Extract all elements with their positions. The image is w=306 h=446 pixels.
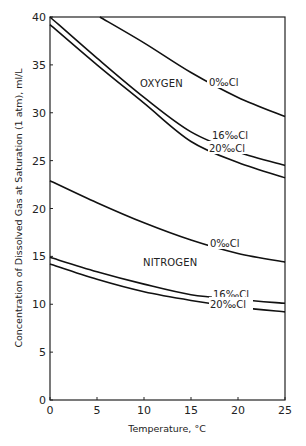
oxygen-20-label: 20‰Cl [209, 143, 245, 154]
x-tick-label: 5 [94, 404, 101, 417]
oxygen-0-label: 0‰Cl [209, 77, 239, 88]
chart: 05101520250510152025303540 OXYGEN NITROG… [0, 0, 306, 446]
axis-tick-labels: 05101520250510152025303540 [32, 11, 292, 417]
y-tick-label: 10 [32, 298, 46, 311]
y-tick-label: 40 [32, 11, 46, 24]
y-tick-label: 15 [32, 250, 46, 263]
y-tick-label: 30 [32, 107, 46, 120]
x-tick-label: 20 [231, 404, 245, 417]
oxygen-label: OXYGEN [140, 78, 183, 89]
x-tick-label: 25 [278, 404, 292, 417]
y-tick-label: 35 [32, 59, 46, 72]
y-tick-label: 5 [39, 346, 46, 359]
oxygen-16-label: 16‰Cl [212, 130, 248, 141]
plot-frame [50, 17, 285, 400]
nitrogen-20-label: 20‰Cl [210, 299, 246, 310]
x-axis-title: Temperature, °C [127, 423, 206, 434]
nitrogen-label: NITROGEN [143, 257, 198, 268]
curve-nitrogen-0 [50, 181, 285, 262]
axis-ticks [50, 17, 285, 400]
y-tick-label: 20 [32, 203, 46, 216]
x-tick-label: 0 [47, 404, 54, 417]
curve-oxygen-0 [100, 17, 285, 117]
nitrogen-0-label: 0‰Cl [210, 238, 240, 249]
y-axis-title: Concentration of Dissolved Gas at Satura… [13, 68, 24, 348]
x-tick-label: 15 [184, 404, 198, 417]
y-tick-label: 0 [39, 394, 46, 407]
y-tick-label: 25 [32, 155, 46, 168]
x-tick-label: 10 [137, 404, 151, 417]
